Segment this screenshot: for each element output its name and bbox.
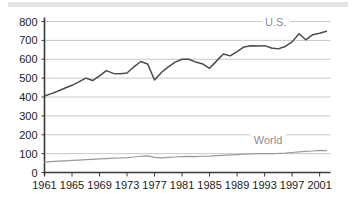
y-tick-label-300: 300 bbox=[19, 110, 37, 122]
line-chart: 0100200300400500600700800 19611965196919… bbox=[0, 0, 355, 201]
x-tick-label-1985: 1985 bbox=[197, 179, 221, 191]
y-tick-label-800: 800 bbox=[19, 16, 37, 28]
y-tick-label-500: 500 bbox=[19, 72, 37, 84]
y-tick-label-0: 0 bbox=[31, 167, 37, 179]
series-line-us bbox=[45, 31, 327, 96]
x-tick-label-1965: 1965 bbox=[60, 179, 84, 191]
series-label-world: World bbox=[254, 134, 283, 146]
series-annotations: U.S.World bbox=[250, 15, 290, 146]
x-tick-label-1973: 1973 bbox=[115, 179, 139, 191]
y-tick-label-100: 100 bbox=[19, 148, 37, 160]
chart-figure: 0100200300400500600700800 19611965196919… bbox=[0, 0, 355, 201]
x-tick-label-1981: 1981 bbox=[170, 179, 194, 191]
x-tick-label-1961: 1961 bbox=[32, 179, 56, 191]
x-tick-label-1997: 1997 bbox=[280, 179, 304, 191]
y-tick-label-700: 700 bbox=[19, 34, 37, 46]
series-label-us: U.S. bbox=[265, 16, 286, 28]
y-tick-label-200: 200 bbox=[19, 129, 37, 141]
x-tick-label-1989: 1989 bbox=[225, 179, 249, 191]
x-tick-label-1993: 1993 bbox=[252, 179, 276, 191]
x-axis-tick-labels: 1961196519691973197719811985198919931997… bbox=[32, 179, 332, 191]
series-line-world bbox=[45, 150, 327, 162]
x-tick-label-1977: 1977 bbox=[142, 179, 166, 191]
y-tick-label-600: 600 bbox=[19, 53, 37, 65]
y-tick-label-400: 400 bbox=[19, 91, 37, 103]
y-axis-tick-labels: 0100200300400500600700800 bbox=[19, 16, 37, 179]
x-tick-label-1969: 1969 bbox=[87, 179, 111, 191]
x-tick-label-2001: 2001 bbox=[307, 179, 331, 191]
